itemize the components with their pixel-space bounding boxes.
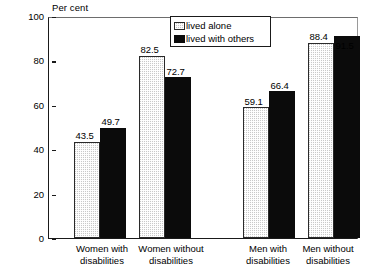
x-axis-label-line1: Men without xyxy=(283,243,373,255)
y-tick-20: 20 xyxy=(16,190,44,200)
y-tick-mark-0 xyxy=(52,239,56,240)
bar-label-men-without-disabilities-lived-alone: 88.4 xyxy=(309,32,328,42)
y-tick-80: 80 xyxy=(16,56,44,66)
bar-label-women-with-disabilities-lived-alone: 43.5 xyxy=(75,131,94,141)
bar-men-with-disabilities-lived-with-others xyxy=(269,91,295,238)
y-axis-tick-labels: 100 80 60 40 20 0 xyxy=(8,17,44,239)
y-tick-60: 60 xyxy=(16,101,44,111)
legend-item-lived-with-others: lived with others xyxy=(174,32,267,45)
bar-label-women-with-disabilities-lived-with-others: 49.7 xyxy=(101,117,120,127)
bar-label-men-without-disabilities-lived-with-others: 91.5 xyxy=(335,41,354,51)
bar-women-with-disabilities-lived-alone xyxy=(74,142,100,238)
y-tick-100: 100 xyxy=(16,12,44,22)
y-tick-0: 0 xyxy=(16,234,44,244)
legend-label-lived-with-others: lived with others xyxy=(186,33,254,44)
legend-swatch-solid-black-icon xyxy=(174,35,185,43)
y-tick-40: 40 xyxy=(16,145,44,155)
bar-chart: Per cent 100 80 60 40 20 0 43.5 49.7 82.… xyxy=(0,0,373,269)
legend-label-lived-alone: lived alone xyxy=(186,20,231,31)
bar-label-men-with-disabilities-lived-with-others: 66.4 xyxy=(270,81,289,91)
bar-label-women-without-disabilities-lived-alone: 82.5 xyxy=(140,45,159,55)
x-axis-label-men-without-disabilities: Men without disabilities xyxy=(283,243,373,266)
y-axis-unit-label: Per cent xyxy=(52,2,88,13)
x-axis-label-line1: Women without xyxy=(112,243,230,255)
bar-men-without-disabilities-lived-with-others xyxy=(334,36,360,238)
x-axis-label-line2: disabilities xyxy=(112,255,230,267)
bar-women-without-disabilities-lived-alone xyxy=(139,56,165,238)
bar-men-without-disabilities-lived-alone xyxy=(308,43,334,238)
chart-legend: lived alone lived with others xyxy=(170,16,271,47)
bar-women-with-disabilities-lived-with-others xyxy=(100,128,126,238)
x-axis-label-women-without-disabilities: Women without disabilities xyxy=(112,243,230,266)
legend-item-lived-alone: lived alone xyxy=(174,19,267,32)
x-axis-label-line2: disabilities xyxy=(283,255,373,267)
bars-layer: 43.5 49.7 82.5 72.7 59.1 66.4 88.4 91.5 xyxy=(49,17,356,238)
bar-women-without-disabilities-lived-with-others xyxy=(165,77,191,238)
bar-men-with-disabilities-lived-alone xyxy=(243,107,269,238)
bar-label-women-without-disabilities-lived-with-others: 72.7 xyxy=(166,67,185,77)
bar-label-men-with-disabilities-lived-alone: 59.1 xyxy=(244,97,263,107)
legend-swatch-stipple-icon xyxy=(174,22,185,30)
